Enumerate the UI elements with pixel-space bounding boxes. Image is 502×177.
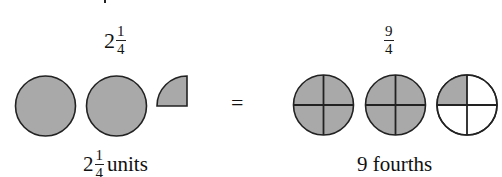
quarter-circle (157, 76, 187, 106)
denominator: 4 (95, 166, 105, 177)
whole-circle-2 (87, 76, 147, 136)
fraction: 1 4 (95, 148, 105, 177)
quartered-circle-full-2 (366, 75, 426, 135)
quartered-circle-one-quarter (437, 75, 497, 135)
fourths-label-bottom: 9 fourths (357, 154, 432, 175)
quartered-circle-full-1 (294, 75, 354, 135)
equals-sign: = (231, 92, 243, 114)
whole-part: 2 (83, 154, 94, 175)
mixed-number-label-bottom: 2 1 4 units (83, 148, 148, 177)
numerator: 1 (95, 148, 105, 163)
whole-circle-1 (16, 76, 76, 136)
unit-label: units (107, 154, 148, 175)
fraction-diagram (0, 0, 502, 177)
